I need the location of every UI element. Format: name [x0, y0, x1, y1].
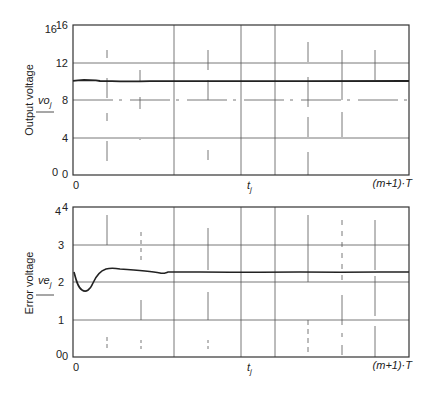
top-ylabel: Output voltage: [23, 64, 35, 136]
bottom-ylabel: Error voltage: [23, 252, 35, 315]
svg-text:16: 16: [45, 23, 57, 35]
top-x-tj: tj: [247, 179, 252, 194]
svg-text:0: 0: [62, 350, 68, 362]
svg-text:3: 3: [58, 239, 64, 251]
svg-text:4: 4: [62, 201, 68, 213]
bottom-y-ticks: 4 3 2 1 0 4 0: [55, 201, 68, 362]
svg-text:2: 2: [58, 276, 64, 288]
bottom-x-zero: 0: [73, 361, 79, 373]
svg-text:0: 0: [52, 166, 58, 178]
bottom-x-tj: tj: [247, 361, 252, 376]
output-voltage-chart: 16 12 8 4 0 16 0 0 tj (m+1)·T Output vol…: [23, 19, 413, 194]
svg-text:8: 8: [62, 94, 68, 106]
bottom-symbol: vej: [38, 274, 52, 289]
svg-text:16: 16: [56, 19, 68, 31]
top-x-zero: 0: [73, 179, 79, 191]
svg-text:12: 12: [56, 57, 68, 69]
svg-text:0: 0: [62, 168, 68, 180]
chart-canvas: 16 12 8 4 0 16 0 0 tj (m+1)·T Output vol…: [0, 0, 441, 393]
top-x-end: (m+1)·T: [373, 177, 414, 189]
top-symbol: voj: [38, 94, 52, 109]
svg-text:4: 4: [55, 205, 61, 217]
svg-text:1: 1: [58, 314, 64, 326]
top-grid: [73, 25, 409, 175]
svg-text:0: 0: [56, 348, 62, 360]
error-voltage-curve: [74, 268, 409, 291]
bottom-grid: [73, 207, 409, 357]
error-voltage-chart: 4 3 2 1 0 4 0 0 tj (m+1)·T Error voltage…: [23, 201, 413, 376]
svg-text:4: 4: [62, 132, 68, 144]
bottom-x-end: (m+1)·T: [373, 359, 414, 371]
